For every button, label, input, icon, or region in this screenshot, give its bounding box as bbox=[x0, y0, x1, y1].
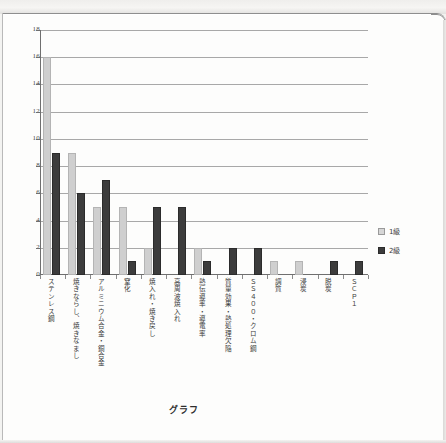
x-axis-category-labels: ステンレス鋼焼きならし、焼きなましアルミニウム合金・銅合金窒化焼入れ・焼き戻し高… bbox=[40, 278, 368, 398]
scanned-page: 181614121086420 ステンレス鋼焼きならし、焼きなましアルミニウム合… bbox=[0, 0, 446, 443]
x-tick-mark bbox=[343, 275, 344, 279]
x-label-焼きならし、焼きなまし: 焼きならし、焼きなまし bbox=[71, 278, 78, 359]
x-label-アルミニウム合金・銅合金: アルミニウム合金・銅合金 bbox=[96, 278, 103, 367]
x-tick-mark bbox=[141, 275, 142, 279]
x-label-質量効果・熱処理欠陥: 質量効果・熱処理欠陥 bbox=[223, 278, 230, 352]
scan-top-edge bbox=[0, 0, 446, 14]
x-tick-mark bbox=[318, 275, 319, 279]
bar-group bbox=[242, 30, 267, 275]
bar-group bbox=[267, 30, 292, 275]
legend-label: 2級 bbox=[389, 245, 400, 255]
bar-1級-窒化 bbox=[119, 207, 127, 275]
x-tick-mark bbox=[267, 275, 268, 279]
bar-group bbox=[318, 30, 343, 275]
bar-2級-高周波焼入れ bbox=[178, 207, 186, 275]
bar-series-area bbox=[40, 30, 368, 275]
bar-1級-浸炭 bbox=[295, 261, 303, 275]
bar-1級-ステンレス鋼 bbox=[43, 57, 51, 275]
legend-item-2級: 2級 bbox=[378, 245, 442, 255]
bar-1級-焼きならし、焼きなまし bbox=[68, 153, 76, 276]
x-tick-mark bbox=[292, 275, 293, 279]
bar-2級-ＳＣＰ１ bbox=[355, 261, 363, 275]
chart-caption: グラフ bbox=[0, 403, 368, 416]
bar-2級-ステンレス鋼 bbox=[52, 153, 60, 276]
bar-group bbox=[90, 30, 115, 275]
bar-2級-脱炭 bbox=[330, 261, 338, 275]
x-label-熱伝導率・導電率: 熱伝導率・導電率 bbox=[197, 278, 204, 337]
legend-item-1級: 1級 bbox=[378, 226, 442, 236]
bar-group bbox=[191, 30, 216, 275]
x-tick-mark bbox=[40, 275, 41, 279]
x-label-浸炭: 浸炭 bbox=[298, 278, 305, 293]
x-label-ステンレス鋼: ステンレス鋼 bbox=[46, 278, 53, 322]
bar-group bbox=[343, 30, 368, 275]
bar-2級-焼きならし、焼きなまし bbox=[77, 193, 85, 275]
bar-group bbox=[141, 30, 166, 275]
bar-group bbox=[40, 30, 65, 275]
x-label-調質: 調質 bbox=[273, 278, 280, 293]
x-tick-mark bbox=[242, 275, 243, 279]
bar-1級-焼入れ・焼き戻し bbox=[144, 248, 152, 275]
x-label-ＳＳ４００・クロム鋼: ＳＳ４００・クロム鋼 bbox=[248, 278, 255, 352]
bar-group bbox=[217, 30, 242, 275]
x-tick-mark bbox=[217, 275, 218, 279]
x-label-高周波焼入れ: 高周波焼入れ bbox=[172, 278, 179, 322]
x-tick-mark bbox=[368, 275, 369, 279]
bar-2級-質量効果・熱処理欠陥 bbox=[229, 248, 237, 275]
chart-legend: 1級2級 bbox=[378, 226, 442, 264]
x-label-窒化: 窒化 bbox=[122, 278, 129, 293]
bar-1級-熱伝導率・導電率 bbox=[194, 248, 202, 275]
x-tick-mark bbox=[166, 275, 167, 279]
x-tick-mark bbox=[65, 275, 66, 279]
legend-swatch-icon bbox=[378, 247, 385, 254]
bar-2級-焼入れ・焼き戻し bbox=[153, 207, 161, 275]
bar-group bbox=[292, 30, 317, 275]
x-label-脱炭: 脱炭 bbox=[324, 278, 331, 293]
legend-label: 1級 bbox=[389, 226, 400, 236]
bar-2級-ＳＳ４００・クロム鋼 bbox=[254, 248, 262, 275]
x-label-焼入れ・焼き戻し: 焼入れ・焼き戻し bbox=[147, 278, 154, 337]
bar-1級-アルミニウム合金・銅合金 bbox=[93, 207, 101, 275]
bar-chart: 181614121086420 ステンレス鋼焼きならし、焼きなましアルミニウム合… bbox=[0, 14, 446, 434]
bar-2級-熱伝導率・導電率 bbox=[203, 261, 211, 275]
x-label-ＳＣＰ１: ＳＣＰ１ bbox=[349, 278, 356, 308]
x-tick-mark bbox=[191, 275, 192, 279]
bar-2級-アルミニウム合金・銅合金 bbox=[102, 180, 110, 275]
legend-swatch-icon bbox=[378, 228, 385, 235]
y-axis-ticks: 181614121086420 bbox=[0, 14, 40, 276]
bar-group bbox=[166, 30, 191, 275]
x-tick-mark bbox=[90, 275, 91, 279]
x-tick-mark bbox=[116, 275, 117, 279]
bar-2級-窒化 bbox=[128, 261, 136, 275]
bar-group bbox=[116, 30, 141, 275]
bar-1級-調質 bbox=[270, 261, 278, 275]
bar-group bbox=[65, 30, 90, 275]
